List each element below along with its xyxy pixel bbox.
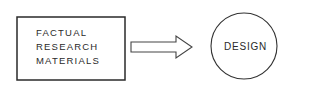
- block-arrow-icon: [131, 36, 192, 58]
- source-node-label: FACTUAL RESEARCH MATERIALS: [36, 26, 100, 68]
- target-node-label: DESIGN: [224, 40, 267, 54]
- source-line-2: RESEARCH: [36, 40, 100, 54]
- source-line-3: MATERIALS: [36, 54, 100, 68]
- source-line-1: FACTUAL: [36, 26, 100, 40]
